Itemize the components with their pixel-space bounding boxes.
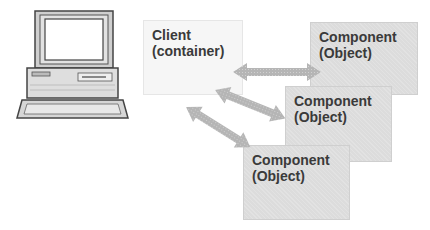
bidirectional-arrow-icon	[233, 63, 321, 81]
component-1-label: Component	[319, 29, 409, 45]
client-container-box: Client (container)	[143, 20, 243, 95]
component-2-sublabel: (Object)	[294, 109, 383, 125]
client-sublabel: (container)	[152, 43, 234, 59]
client-label: Client	[152, 27, 234, 43]
component-box-1: Component (Object)	[310, 22, 418, 95]
component-3-label: Component	[252, 152, 341, 168]
desktop-computer-icon	[0, 0, 140, 125]
component-1-sublabel: (Object)	[319, 45, 409, 61]
component-box-3: Component (Object)	[243, 145, 350, 220]
component-2-label: Component	[294, 93, 383, 109]
component-3-sublabel: (Object)	[252, 168, 341, 184]
